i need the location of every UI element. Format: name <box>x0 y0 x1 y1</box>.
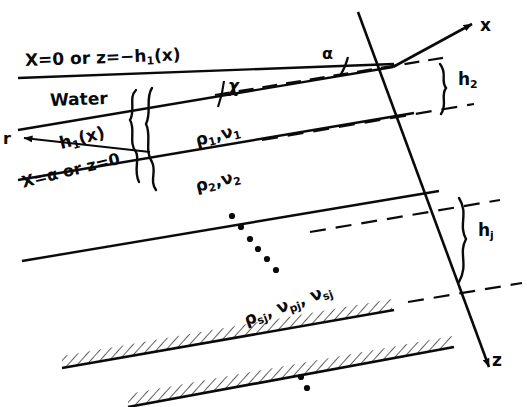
label-h2-thickness: h2 <box>458 71 478 91</box>
dash-interface-2-3-extension <box>310 200 500 232</box>
line-interface-2-3 <box>22 191 439 261</box>
ellipsis-bottom <box>298 374 310 391</box>
brace-h1 <box>130 90 139 182</box>
brace-h2 <box>440 64 446 114</box>
dashed-extensions <box>215 57 522 302</box>
label-alpha-angle: α <box>322 46 333 62</box>
label-r-axis: r <box>3 131 11 147</box>
label-z-axis: z <box>492 352 502 369</box>
brace-h1-outer <box>146 88 156 190</box>
thickness-braces <box>130 64 466 282</box>
label-x-axis: x <box>480 17 491 34</box>
line-hatched-lower-edge <box>128 347 454 407</box>
brace-hj <box>459 198 466 282</box>
figure-dipping-layered-model: X=0 or z=−h1(x) Water r h1(x) X=α or z=0… <box>0 0 527 407</box>
label-chi-angle: χ <box>228 78 239 95</box>
label-hj-thickness: hj <box>478 222 494 242</box>
label-water: Water <box>50 90 108 109</box>
